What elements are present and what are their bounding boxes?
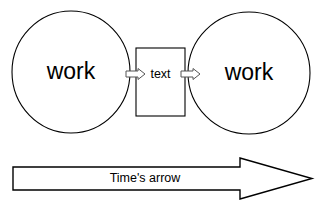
- times-arrow-label: Time's arrow: [110, 171, 182, 185]
- center-text-label: text: [150, 67, 171, 81]
- center-text-box[interactable]: [136, 48, 185, 116]
- diagram-svg: work work text Time's arrow: [0, 0, 316, 209]
- right-work-label: work: [224, 59, 274, 85]
- left-work-label: work: [46, 58, 96, 84]
- diagram-canvas: work work text Time's arrow: [0, 0, 316, 209]
